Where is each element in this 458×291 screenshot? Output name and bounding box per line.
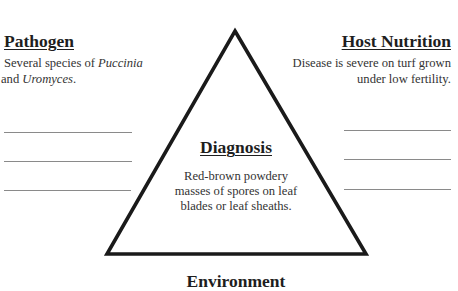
diagnosis-heading: Diagnosis bbox=[136, 137, 336, 157]
host-nutrition-line-1: Disease is severe on turf grown bbox=[251, 55, 451, 71]
pathogen-text: Several species of bbox=[4, 56, 98, 70]
pathogen-heading: Pathogen bbox=[4, 31, 74, 51]
host-answer-line-2[interactable] bbox=[344, 159, 451, 160]
diagnosis-description: Red-brown powdery masses of spores on le… bbox=[146, 169, 326, 214]
host-nutrition-description: Disease is severe on turf grown under lo… bbox=[251, 55, 451, 87]
host-nutrition-line-2: under low fertility. bbox=[251, 71, 451, 87]
pathogen-answer-line-2[interactable] bbox=[4, 161, 132, 162]
host-answer-line-3[interactable] bbox=[344, 189, 451, 190]
environment-heading: Environment bbox=[136, 271, 336, 291]
diagnosis-line-1: Red-brown powdery bbox=[146, 169, 326, 184]
pathogen-text: . bbox=[73, 72, 76, 86]
pathogen-description: Several species of Puccinia and Uromyces… bbox=[4, 55, 164, 87]
diagnosis-line-3: blades or leaf sheaths. bbox=[146, 199, 326, 214]
genus-puccinia: Puccinia bbox=[98, 56, 143, 70]
host-answer-line-1[interactable] bbox=[344, 130, 451, 131]
genus-uromyces: Uromyces bbox=[22, 72, 73, 86]
host-nutrition-heading: Host Nutrition bbox=[342, 31, 451, 51]
diagnosis-line-2: masses of spores on leaf bbox=[146, 184, 326, 199]
pathogen-answer-line-1[interactable] bbox=[4, 132, 132, 133]
pathogen-text: and bbox=[1, 72, 22, 86]
pathogen-answer-line-3[interactable] bbox=[4, 190, 131, 191]
